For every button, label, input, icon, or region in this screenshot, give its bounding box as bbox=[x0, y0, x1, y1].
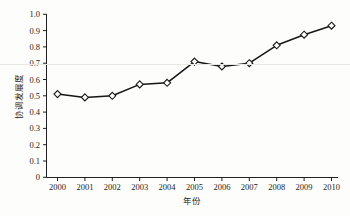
y-tick-label: 0.5 bbox=[29, 91, 40, 101]
x-tick-label: 2001 bbox=[76, 182, 93, 192]
x-tick-label: 2006 bbox=[213, 182, 230, 192]
series-markers bbox=[54, 22, 335, 101]
x-tick-label: 2010 bbox=[323, 182, 340, 192]
y-tick-label: 0.8 bbox=[29, 42, 40, 52]
y-axis-tick-labels: 1.0 0.9 0.8 0.7 0.6 0.5 0.4 0.3 0.2 0.1 … bbox=[29, 9, 40, 182]
y-tick-label: 0.9 bbox=[29, 26, 40, 36]
y-tick-label: 0.6 bbox=[29, 75, 40, 85]
scan-artifact-line bbox=[0, 64, 350, 65]
x-axis-ticks bbox=[58, 178, 332, 182]
x-tick-label: 2007 bbox=[241, 182, 258, 192]
data-point-marker bbox=[136, 81, 143, 88]
data-point-marker bbox=[81, 94, 88, 101]
data-point-marker bbox=[54, 91, 61, 98]
y-tick-label: 0.4 bbox=[29, 107, 40, 117]
y-tick-label: 0 bbox=[36, 172, 40, 182]
x-tick-label: 2009 bbox=[296, 182, 313, 192]
x-tick-label: 2002 bbox=[104, 182, 121, 192]
x-tick-label: 2004 bbox=[159, 182, 177, 192]
data-point-marker bbox=[109, 92, 116, 99]
y-tick-label: 0.2 bbox=[29, 140, 40, 150]
x-tick-label: 2008 bbox=[268, 182, 285, 192]
chart-figure: 1.0 0.9 0.8 0.7 0.6 0.5 0.4 0.3 0.2 0.1 … bbox=[0, 0, 350, 216]
x-axis-title: 年份 bbox=[183, 196, 201, 206]
line-chart-canvas: 1.0 0.9 0.8 0.7 0.6 0.5 0.4 0.3 0.2 0.1 … bbox=[0, 0, 350, 216]
y-tick-label: 1.0 bbox=[29, 9, 40, 19]
x-tick-label: 2003 bbox=[131, 182, 148, 192]
y-axis-title: 协调发展度 bbox=[14, 74, 24, 119]
x-axis-tick-labels: 2000 2001 2002 2003 2004 2005 2006 2007 … bbox=[49, 182, 340, 192]
y-axis-ticks bbox=[43, 14, 47, 177]
data-point-marker bbox=[328, 22, 335, 29]
x-tick-label: 2005 bbox=[186, 182, 203, 192]
data-point-marker bbox=[301, 31, 308, 38]
y-tick-label: 0.1 bbox=[29, 156, 40, 166]
y-tick-label: 0.3 bbox=[29, 123, 40, 133]
x-tick-label: 2000 bbox=[49, 182, 66, 192]
